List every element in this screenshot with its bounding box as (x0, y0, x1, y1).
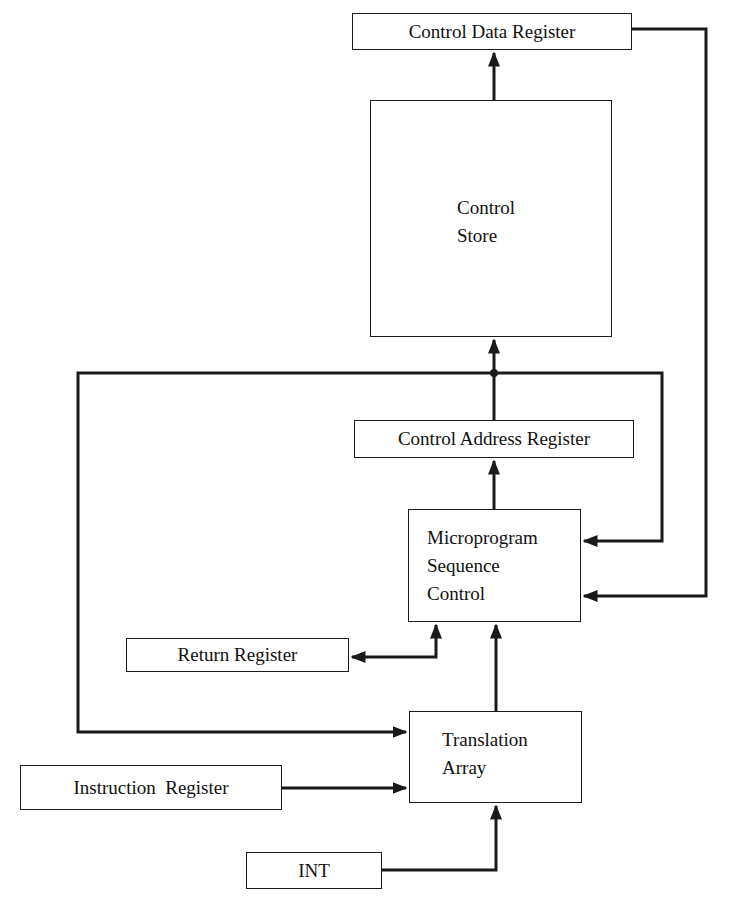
instruction-register-label: Instruction Register (73, 777, 228, 799)
control-data-register-label: Control Data Register (409, 21, 576, 43)
translation-array-label-line2: Array (442, 754, 528, 782)
int-to-translation-arrow (382, 806, 496, 870)
return-register-arrow (352, 625, 436, 657)
msc-label-line3: Control (427, 580, 538, 608)
control-store-box: Control Store (370, 100, 612, 337)
int-label: INT (298, 860, 330, 882)
control-store-label-line2: Store (457, 222, 515, 250)
instruction-register-box: Instruction Register (20, 765, 282, 810)
int-box: INT (246, 852, 382, 889)
control-address-register-label: Control Address Register (398, 428, 590, 450)
junction-dot (490, 369, 498, 377)
control-store-label-line1: Control (457, 194, 515, 222)
microprogram-control-diagram: Control Data Register Control Store Cont… (0, 0, 732, 910)
control-data-register-box: Control Data Register (352, 13, 632, 50)
control-address-register-box: Control Address Register (354, 420, 634, 458)
msc-label-line2: Sequence (427, 552, 538, 580)
msc-label-line1: Microprogram (427, 524, 538, 552)
return-register-label: Return Register (178, 644, 298, 666)
translation-array-box: Translation Array (409, 711, 582, 803)
return-register-box: Return Register (126, 638, 349, 672)
microprogram-sequence-control-box: Microprogram Sequence Control (408, 509, 581, 622)
translation-array-label-line1: Translation (442, 726, 528, 754)
